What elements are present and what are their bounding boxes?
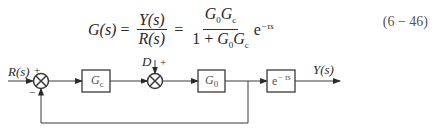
gc-label: Gc [91,73,104,89]
input-label: R(s) [8,64,30,80]
transfer-function-equation: G(s) = Y(s) R(s) = G0Gc 1 + G0Gc e−τs (6… [0,0,438,45]
gc-symbol: G [221,5,233,22]
output-label: Y(s) [313,62,334,78]
frac2-numerator: G0Gc [203,6,239,30]
exp-base: e [254,21,261,38]
g0-symbol: G [205,5,217,22]
g0-main: G [205,73,214,87]
sum1-plus-sign: + [34,64,40,76]
exp-power: −τs [261,21,274,31]
gc-sub: c [100,79,104,89]
disturbance-label: D [142,54,151,70]
sum1-minus-sign: − [29,86,35,98]
g0-label: G0 [205,73,218,89]
gc-main: G [91,73,100,87]
gc-subscript: c [232,15,236,25]
summing-junction-2 [148,74,163,89]
delay-sup: − τs [277,73,290,82]
delay-label: e− τs [272,73,291,89]
block-diagram [0,45,438,134]
frac1-numerator: Y(s) [137,12,167,30]
delay-exponential: e−τs [254,21,274,39]
eq-equals-1: = [120,21,129,39]
fraction-y-over-r: Y(s) R(s) [136,12,167,47]
equation-number: (6 − 46) [383,14,428,30]
eq-equals-2: = [174,21,183,39]
sum2-plus-sign: + [160,56,166,68]
g0-sub: 0 [214,79,219,89]
eq-lhs: G(s) [88,21,116,39]
